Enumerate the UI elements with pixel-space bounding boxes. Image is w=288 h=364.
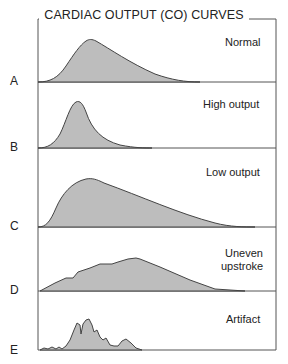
panel-label-upstroke: upstroke bbox=[221, 260, 263, 273]
curve-high-output bbox=[38, 101, 152, 148]
curve-low-output bbox=[38, 179, 255, 227]
diagram-title: CARDIAC OUTPUT (CO) CURVES bbox=[0, 8, 288, 22]
panel-letter-e: E bbox=[10, 343, 18, 357]
curve-artifact bbox=[40, 319, 142, 350]
panel-label-normal: Normal bbox=[225, 36, 260, 49]
panel-letter-d: D bbox=[10, 283, 19, 297]
panel-letter-a: A bbox=[10, 74, 18, 88]
diagram-frame bbox=[0, 0, 288, 364]
title-text: CARDIAC OUTPUT (CO) CURVES bbox=[39, 8, 248, 22]
curve-uneven-upstroke bbox=[40, 258, 245, 291]
panel-label-low-output: Low output bbox=[206, 166, 260, 179]
curve-normal bbox=[38, 40, 200, 83]
panel-label-uneven: Uneven bbox=[225, 247, 263, 260]
panel-letter-b: B bbox=[10, 140, 18, 154]
panel-label-artifact: Artifact bbox=[226, 313, 260, 326]
panel-label-high-output: High output bbox=[203, 98, 259, 111]
panel-letter-c: C bbox=[10, 219, 19, 233]
